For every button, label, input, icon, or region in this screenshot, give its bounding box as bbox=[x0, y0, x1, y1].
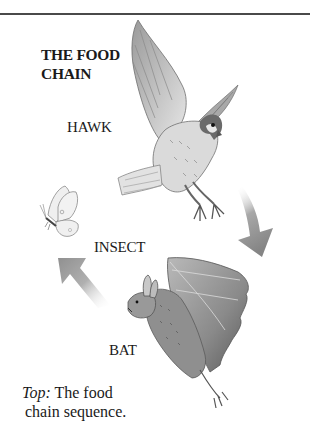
caption-line-2: chain sequence. bbox=[22, 402, 126, 421]
figure-caption: Top: The food chain sequence. bbox=[22, 383, 126, 421]
arrow-bat-to-insect bbox=[58, 258, 110, 308]
bat-illustration bbox=[128, 258, 248, 408]
bat-label: BAT bbox=[109, 342, 137, 358]
insect-label: INSECT bbox=[94, 239, 145, 255]
caption-prefix: Top: bbox=[22, 384, 51, 401]
hawk-label: HAWK bbox=[67, 119, 112, 135]
hawk-illustration bbox=[118, 20, 238, 221]
food-chain-illustration bbox=[0, 0, 310, 443]
caption-line-1: The food bbox=[51, 384, 113, 401]
butterfly-illustration bbox=[40, 186, 78, 236]
arrow-hawk-to-bat bbox=[238, 186, 273, 257]
